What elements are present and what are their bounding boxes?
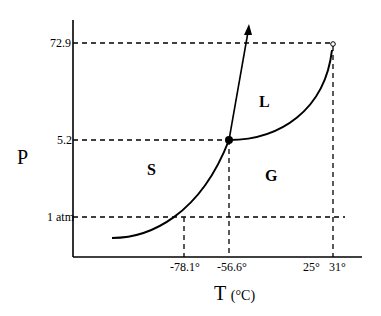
melting-curve [229,32,248,140]
x-tick-56-6: -56.6° [217,261,247,273]
arrow-head-icon [244,24,252,35]
region-gas: G [265,168,277,184]
y-tick-72-9: 72.9 [50,37,71,49]
phase-diagram: 72.9 5.2 1 atm P -78.1° -56.6° 25° 31° T… [0,0,381,316]
dashed-guides [73,43,345,257]
y-tick-1-atm: 1 atm [47,211,74,223]
x-tick-31: 31° [329,261,346,273]
x-axis-label: T (°C) [214,283,255,303]
y-tick-5-2: 5.2 [57,134,72,146]
region-liquid: L [259,94,270,110]
x-tick-78-1: -78.1° [170,261,200,273]
sublimation-curve [112,140,229,238]
critical-point [331,42,336,47]
triple-point [225,136,233,144]
vaporization-curve [229,50,332,140]
x-tick-25: 25° [303,261,320,273]
y-axis-label: P [17,147,28,167]
region-solid: S [147,162,156,178]
